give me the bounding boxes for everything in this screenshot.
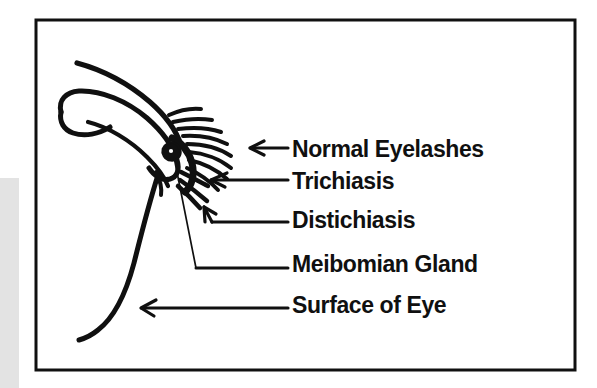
label-meibomian-gland: Meibomian Gland <box>292 251 478 277</box>
label-trichiasis: Trichiasis <box>292 168 394 194</box>
eyelid-anatomy-figure: Normal Eyelashes Trichiasis Distichiasis… <box>0 0 597 388</box>
diagram-canvas: Normal Eyelashes Trichiasis Distichiasis… <box>0 0 597 388</box>
meibomian-gland-lumen <box>169 149 173 153</box>
label-distichiasis: Distichiasis <box>292 207 415 233</box>
label-surface-of-eye: Surface of Eye <box>292 292 446 318</box>
left-gray-band <box>0 178 19 388</box>
page-background <box>0 0 597 388</box>
label-normal-eyelashes: Normal Eyelashes <box>292 136 484 162</box>
